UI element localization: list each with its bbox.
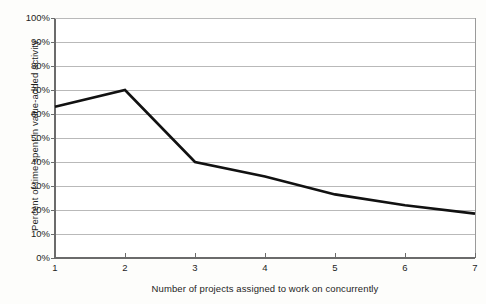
x-tick-label: 6 [390,263,420,273]
chart-figure: 0%10%20%30%40%50%60%70%80%90%100% 123456… [0,0,486,304]
x-tick-label: 2 [110,263,140,273]
x-tick-label: 4 [250,263,280,273]
x-tick-label: 1 [40,263,70,273]
x-tick-label: 7 [460,263,486,273]
y-axis-title: Percent of time spent in value-added act… [29,6,40,266]
x-tick-label: 5 [320,263,350,273]
x-axis-tick-labels: 1234567 [0,0,486,304]
x-tick-label: 3 [180,263,210,273]
x-axis-title: Number of projects assigned to work on c… [55,283,475,294]
